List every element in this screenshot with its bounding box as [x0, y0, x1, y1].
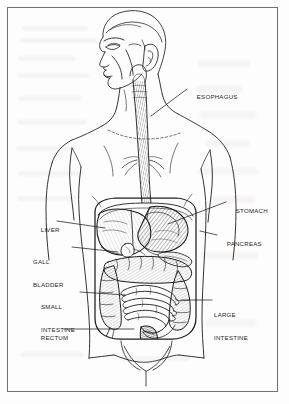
figure-border-frame — [7, 7, 278, 392]
figure-page: ESOPHAGUS STOMACH PANCREAS LARGE INTESTI… — [0, 0, 289, 404]
